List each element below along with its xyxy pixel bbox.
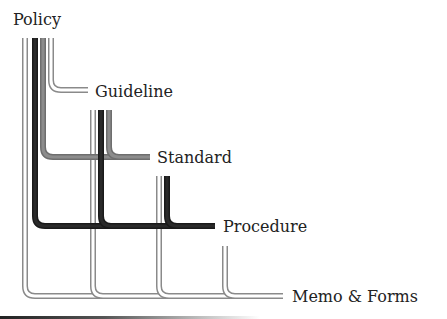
pipe-policy-to-procedure [35,38,215,226]
label-guideline: Guideline [95,84,173,100]
pipe-standard-to-procedure [167,176,215,226]
label-standard: Standard [157,150,232,166]
pipe-guideline-to-standard [109,110,150,157]
pipe-procedure-to-memo-forms [225,246,283,296]
pipe-standard-to-memo-forms [159,176,283,296]
pipe-policy-to-guideline [51,38,88,90]
label-procedure: Procedure [223,219,307,235]
label-memo-forms: Memo & Forms [292,289,418,305]
pipe-policy-to-memo-forms [25,38,283,296]
pipe-guideline-to-memo-forms [93,110,283,296]
label-policy: Policy [13,12,61,28]
